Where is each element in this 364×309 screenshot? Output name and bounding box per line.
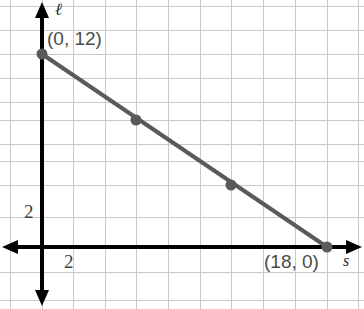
data-point-0-12 bbox=[37, 49, 48, 60]
x-axis-tick-label-2: 2 bbox=[64, 252, 74, 271]
y-axis-label: ℓ bbox=[55, 1, 62, 18]
coordinate-plane-figure: (0, 12) (18, 0) 2 2 ℓ s bbox=[0, 0, 364, 309]
data-point-6-8 bbox=[131, 115, 142, 126]
y-axis-tick-label-2: 2 bbox=[24, 202, 34, 221]
data-point-12-4 bbox=[226, 180, 237, 191]
x-axis-label: s bbox=[343, 253, 349, 269]
point-label-18-0: (18, 0) bbox=[264, 252, 319, 271]
point-label-0-12: (0, 12) bbox=[47, 29, 102, 48]
data-point-18-0 bbox=[322, 242, 333, 253]
